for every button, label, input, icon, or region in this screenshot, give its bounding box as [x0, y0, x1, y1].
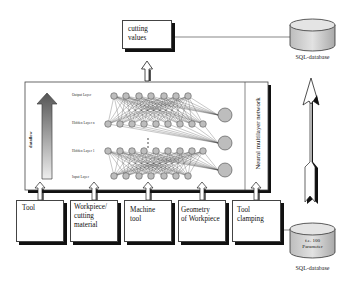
input-box-tool: Tool [16, 200, 64, 242]
database-top-icon [290, 19, 335, 51]
input-box-geometry: Geometry of Workpiece [178, 200, 226, 242]
dataflow-label: dataflow [28, 131, 33, 148]
layer-label-input: Input Layer [72, 175, 89, 179]
top-database-label: SQL-database [290, 54, 335, 60]
input-box-workpiece: Workpiece/ cutting material [70, 200, 118, 242]
input-label: Tool [22, 204, 63, 213]
input-label: material [74, 221, 117, 230]
input-label: clamping [237, 215, 280, 224]
input-box-machine-tool: Machine tool [124, 200, 172, 242]
summary-nodes [218, 108, 232, 177]
layer-label-hidden-1: Hidden Layer 1 [72, 149, 95, 153]
input-label: cutting [74, 212, 117, 221]
input-label: Workpiece/ [74, 203, 117, 212]
arrow-up-output-icon [142, 61, 153, 81]
input-box-tool-clamping: Tool clamping [232, 200, 281, 242]
input-label: of Workpiece [181, 215, 225, 224]
network-box [25, 82, 268, 190]
input-label: Tool [237, 206, 280, 215]
network-title: Neural multilayer network [254, 86, 261, 182]
input-label: tool [130, 215, 171, 224]
input-label: Geometry [181, 206, 225, 215]
cutting-values-label-2: values [128, 34, 171, 43]
input-label: Machine [130, 206, 171, 215]
cutting-values-label-1: cutting [128, 25, 171, 34]
bottom-database-text-1: f.e. 100 [290, 238, 335, 243]
layer-label-hidden-n: Hidden Layer n [72, 121, 95, 125]
layer-label-output: Output Layer [72, 93, 91, 97]
bottom-database-text-2: Parameter [290, 244, 335, 249]
big-vertical-arrow-icon [303, 78, 319, 204]
cutting-values-box: cutting values [122, 20, 172, 49]
bottom-database-label: SQL-database [288, 265, 337, 271]
